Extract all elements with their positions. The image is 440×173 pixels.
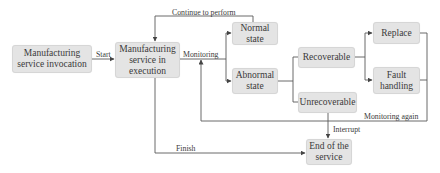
- edge-label-monitoring-again: Monitoring again: [364, 112, 418, 121]
- node-service-invocation: Manufacturing service invocation: [12, 45, 92, 73]
- flowchart-diagram: Manufacturing service invocation Manufac…: [0, 0, 440, 173]
- edge-label-interrupt: Interrupt: [333, 125, 360, 134]
- node-end-of-service: End of the service: [306, 139, 352, 165]
- node-recoverable: Recoverable: [298, 47, 355, 68]
- edge-label-continue: Continue to perform: [172, 8, 236, 17]
- node-fault-handling: Fault handling: [373, 67, 420, 94]
- edge-label-finish: Finish: [176, 144, 196, 153]
- node-unrecoverable: Unrecoverable: [298, 92, 357, 113]
- node-replace: Replace: [373, 22, 420, 44]
- edge-label-start: Start: [96, 50, 111, 59]
- edge-label-monitoring: Monitoring: [183, 50, 219, 59]
- node-abnormal-state: Abnormal state: [232, 68, 278, 94]
- node-service-execution: Manufacturing service in execution: [115, 42, 180, 78]
- node-normal-state: Normal state: [232, 22, 278, 45]
